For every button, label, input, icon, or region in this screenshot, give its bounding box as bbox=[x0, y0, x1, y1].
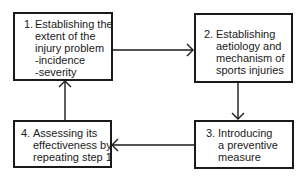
step-4-line-1: Assessing its bbox=[33, 127, 97, 139]
step-1-line-3: injury problem bbox=[35, 42, 104, 54]
step-2-number: 2. bbox=[204, 28, 213, 40]
step-3-box: 3. Introducing a preventive measure bbox=[194, 120, 294, 169]
step-2-box: 2. Establishing aetiology and mechanism … bbox=[194, 13, 293, 83]
step-4-number: 4. bbox=[21, 127, 30, 139]
step-1-line-5: -severity bbox=[35, 66, 77, 78]
step-1-line-1: Establishing the bbox=[35, 18, 113, 30]
step-2-line-3: mechanism of bbox=[216, 52, 284, 64]
step-1-box: 1. Establishing the extent of the injury… bbox=[13, 12, 113, 81]
step-1-line-2: extent of the bbox=[35, 30, 96, 42]
step-2-line-4: sports injuries bbox=[216, 64, 284, 76]
step-4-line-3: repeating step 1 bbox=[33, 151, 112, 163]
step-3-number: 3. bbox=[206, 127, 215, 139]
step-1-number: 1. bbox=[24, 18, 33, 30]
step-2-line-1: Establishing bbox=[216, 28, 275, 40]
step-4-box: 4. Assessing its effectiveness by repeat… bbox=[13, 120, 112, 168]
step-3-line-3: measure bbox=[218, 151, 261, 163]
step-4-line-2: effectiveness by bbox=[33, 139, 112, 151]
step-2-line-2: aetiology and bbox=[216, 40, 281, 52]
step-3-line-1: Introducing bbox=[218, 127, 272, 139]
step-3-line-2: a preventive bbox=[218, 139, 278, 151]
step-1-line-4: -incidence bbox=[35, 54, 85, 66]
